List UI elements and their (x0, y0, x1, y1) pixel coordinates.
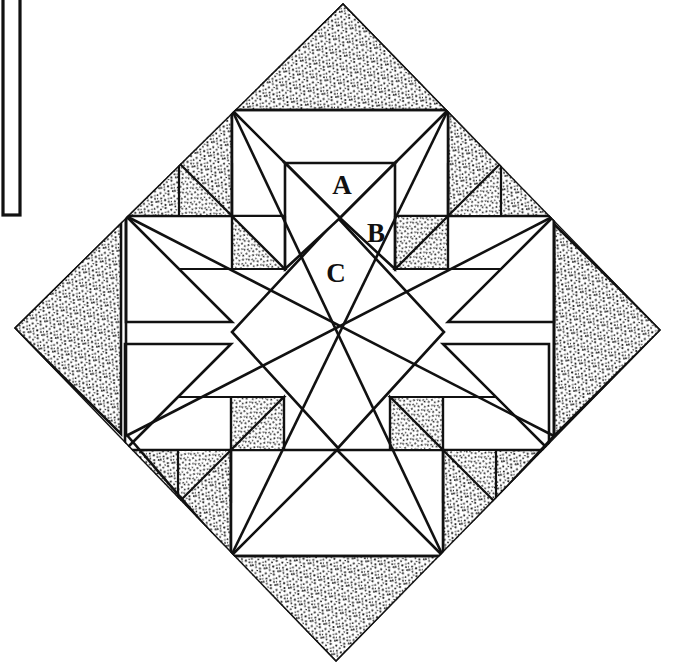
label-A: A (332, 170, 352, 200)
label-C: C (326, 258, 346, 288)
quilt-diagram-canvas: A B C (0, 0, 675, 670)
quilt-diagram-figure: A B C (0, 0, 675, 670)
label-B: B (367, 218, 385, 248)
